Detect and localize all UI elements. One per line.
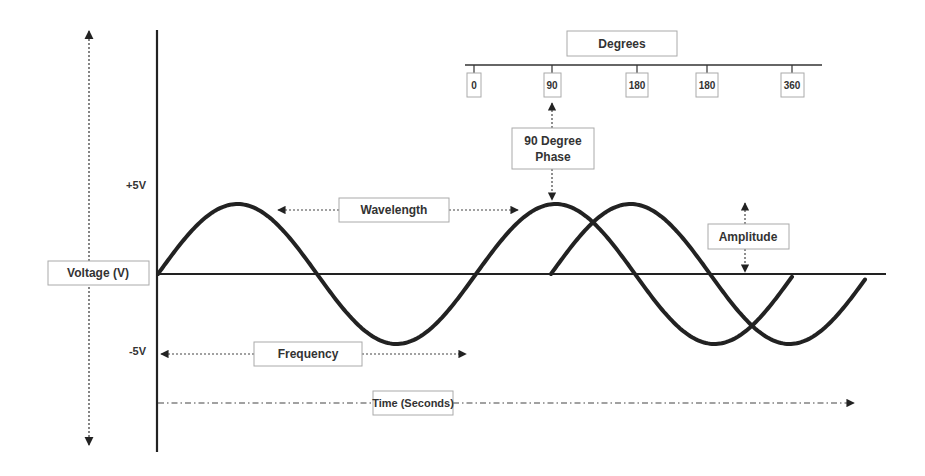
degree-tick-180: 180 bbox=[626, 65, 648, 97]
degree-tick-360: 360 bbox=[781, 65, 804, 97]
frequency-label: Frequency bbox=[278, 347, 339, 361]
time-axis-label: Time (Seconds) bbox=[372, 397, 454, 409]
degree-tick-180b: 180 bbox=[696, 65, 718, 97]
degree-tick-0: 0 bbox=[467, 65, 481, 97]
degrees-title: Degrees bbox=[598, 37, 646, 51]
phase-label-line2: Phase bbox=[535, 150, 571, 164]
voltage-axis-label: Voltage (V) bbox=[67, 266, 129, 280]
wavelength-annotation: Wavelength bbox=[278, 198, 518, 222]
svg-text:180: 180 bbox=[629, 80, 646, 91]
svg-text:90: 90 bbox=[546, 80, 558, 91]
plus-5v-label: +5V bbox=[126, 179, 147, 191]
degrees-scale: Degrees 0 90 180 180 360 bbox=[465, 31, 822, 97]
amplitude-annotation: Amplitude bbox=[708, 203, 789, 272]
amplitude-label: Amplitude bbox=[719, 230, 778, 244]
time-axis: Time (Seconds) bbox=[158, 391, 854, 415]
svg-text:180: 180 bbox=[699, 80, 716, 91]
svg-text:0: 0 bbox=[471, 80, 477, 91]
degree-tick-90: 90 bbox=[544, 65, 561, 97]
frequency-annotation: Frequency bbox=[161, 342, 466, 366]
minus-5v-label: -5V bbox=[129, 345, 147, 357]
sine-wave-diagram: Degrees 0 90 180 180 360 bbox=[0, 0, 925, 476]
phase-annotation: 90 Degree Phase bbox=[512, 103, 594, 200]
phase-label-line1: 90 Degree bbox=[524, 134, 582, 148]
wavelength-label: Wavelength bbox=[361, 203, 428, 217]
svg-text:360: 360 bbox=[784, 80, 801, 91]
